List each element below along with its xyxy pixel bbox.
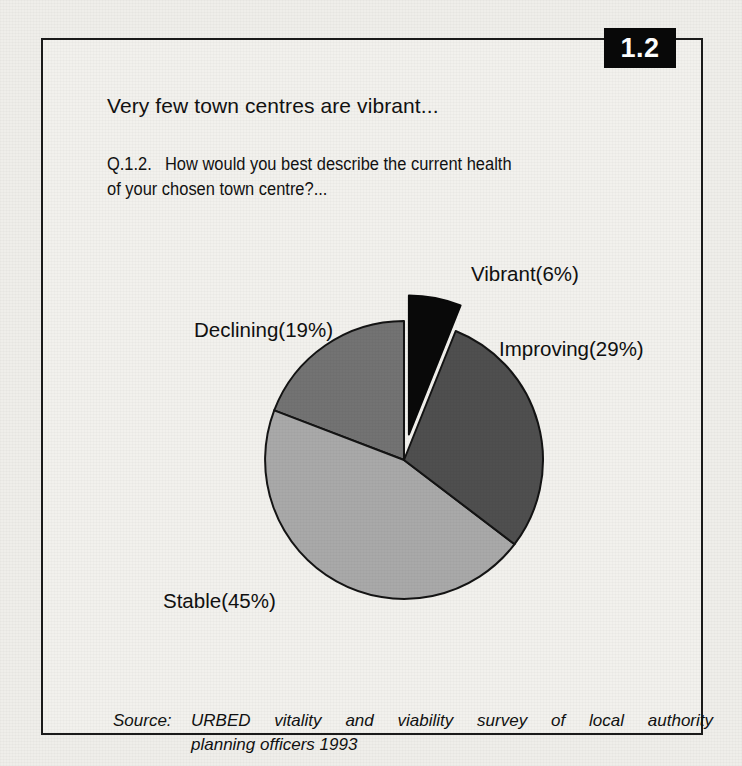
survey-question-line-1: Q.1.2.How would you best describe the cu…	[107, 152, 596, 177]
source-note: Source: URBED vitality and viability sur…	[113, 709, 713, 757]
figure-frame: Very few town centres are vibrant... Q.1…	[41, 38, 703, 735]
source-text-line-2: planning officers 1993	[191, 733, 713, 757]
pie-chart	[43, 40, 742, 766]
question-text-line-2: of your chosen town centre?...	[107, 177, 596, 202]
question-number: Q.1.2.	[107, 154, 152, 174]
source-text-line-1: URBED vitality and viability survey of l…	[191, 709, 713, 733]
source-label: Source:	[113, 709, 191, 733]
figure-headline: Very few town centres are vibrant...	[107, 94, 439, 118]
pie-slice-improving	[404, 331, 543, 544]
pie-slice-stable	[265, 410, 515, 598]
pie-chart-svg	[43, 40, 742, 766]
pie-slice-vibrant	[409, 296, 461, 435]
pie-label-vibrant: Vibrant(6%)	[471, 262, 579, 286]
pie-label-stable: Stable(45%)	[163, 589, 276, 613]
question-text-line-1: How would you best describe the current …	[165, 154, 512, 174]
pie-label-improving: Improving(29%)	[499, 337, 644, 361]
pie-slice-vibrant-group	[409, 296, 461, 435]
figure-number-badge: 1.2	[604, 28, 676, 68]
pie-label-declining: Declining(19%)	[194, 318, 333, 342]
survey-question: Q.1.2.How would you best describe the cu…	[107, 152, 596, 202]
